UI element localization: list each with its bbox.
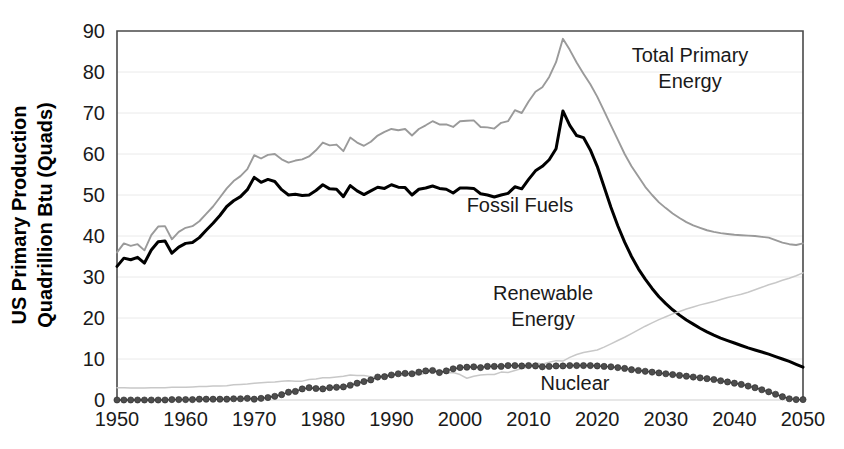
series-marker-nuclear bbox=[148, 397, 154, 403]
series-marker-nuclear bbox=[464, 364, 470, 370]
series-marker-nuclear bbox=[567, 362, 573, 368]
series-marker-nuclear bbox=[676, 372, 682, 378]
series-marker-nuclear bbox=[429, 367, 435, 373]
x-axis-tick-labels: 1950196019701980199020002010202020302040… bbox=[95, 408, 826, 430]
series-marker-nuclear bbox=[670, 371, 676, 377]
series-marker-nuclear bbox=[519, 363, 525, 369]
series-marker-nuclear bbox=[272, 393, 278, 399]
y-axis-title-line1: US Primary Production bbox=[8, 106, 30, 325]
y-axis-title-line2: Quadrillion Btu (Quads) bbox=[34, 102, 56, 328]
series-marker-nuclear bbox=[155, 397, 161, 403]
series-marker-nuclear bbox=[313, 385, 319, 391]
x-tick-label-1990: 1990 bbox=[369, 408, 414, 430]
series-marker-nuclear bbox=[587, 362, 593, 368]
series-marker-nuclear bbox=[189, 396, 195, 402]
x-tick-label-1980: 1980 bbox=[301, 408, 346, 430]
y-tick-label-90: 90 bbox=[83, 20, 105, 42]
series-marker-nuclear bbox=[381, 374, 387, 380]
series-marker-nuclear bbox=[484, 363, 490, 369]
series-marker-nuclear bbox=[738, 381, 744, 387]
series-marker-nuclear bbox=[800, 396, 806, 402]
series-marker-nuclear bbox=[772, 391, 778, 397]
series-marker-nuclear bbox=[779, 394, 785, 400]
series-marker-nuclear bbox=[711, 376, 717, 382]
y-tick-label-50: 50 bbox=[83, 184, 105, 206]
series-marker-nuclear bbox=[724, 379, 730, 385]
series-marker-nuclear bbox=[162, 397, 168, 403]
series-marker-nuclear bbox=[134, 397, 140, 403]
annotation-label-line2-renewable_energy: Energy bbox=[511, 308, 574, 330]
series-marker-nuclear bbox=[505, 362, 511, 368]
series-marker-nuclear bbox=[375, 374, 381, 380]
y-tick-label-60: 60 bbox=[83, 143, 105, 165]
x-tick-label-2000: 2000 bbox=[438, 408, 483, 430]
series-marker-nuclear bbox=[361, 378, 367, 384]
series-marker-nuclear bbox=[608, 364, 614, 370]
series-marker-nuclear bbox=[224, 396, 230, 402]
x-tick-label-1960: 1960 bbox=[163, 408, 208, 430]
series-marker-nuclear bbox=[340, 384, 346, 390]
series-marker-nuclear bbox=[388, 372, 394, 378]
series-marker-nuclear bbox=[416, 369, 422, 375]
x-tick-label-1970: 1970 bbox=[232, 408, 277, 430]
series-marker-nuclear bbox=[306, 385, 312, 391]
y-tick-label-30: 30 bbox=[83, 266, 105, 288]
series-marker-nuclear bbox=[320, 386, 326, 392]
series-marker-nuclear bbox=[196, 396, 202, 402]
series-marker-nuclear bbox=[217, 396, 223, 402]
series-marker-nuclear bbox=[258, 395, 264, 401]
annotation-label-line1-renewable_energy: Renewable bbox=[493, 282, 593, 304]
series-marker-nuclear bbox=[601, 363, 607, 369]
y-tick-label-20: 20 bbox=[83, 307, 105, 329]
x-tick-label-1950: 1950 bbox=[95, 408, 140, 430]
y-tick-label-80: 80 bbox=[83, 61, 105, 83]
y-tick-label-10: 10 bbox=[83, 348, 105, 370]
series-marker-nuclear bbox=[526, 362, 532, 368]
series-marker-nuclear bbox=[745, 383, 751, 389]
series-marker-nuclear bbox=[128, 397, 134, 403]
series-marker-nuclear bbox=[786, 396, 792, 402]
series-marker-nuclear bbox=[628, 367, 634, 373]
series-marker-nuclear bbox=[635, 367, 641, 373]
series-marker-nuclear bbox=[457, 365, 463, 371]
series-marker-nuclear bbox=[231, 396, 237, 402]
series-marker-nuclear bbox=[594, 363, 600, 369]
series-marker-nuclear bbox=[560, 363, 566, 369]
series-marker-nuclear bbox=[423, 368, 429, 374]
series-marker-nuclear bbox=[114, 397, 120, 403]
x-tick-label-2040: 2040 bbox=[712, 408, 757, 430]
series-marker-nuclear bbox=[141, 397, 147, 403]
series-marker-nuclear bbox=[409, 371, 415, 377]
series-marker-nuclear bbox=[731, 380, 737, 386]
annotation-label-line1-total_primary_energy: Total Primary bbox=[632, 44, 749, 66]
series-marker-nuclear bbox=[752, 385, 758, 391]
series-marker-nuclear bbox=[443, 368, 449, 374]
y-tick-label-70: 70 bbox=[83, 102, 105, 124]
series-marker-nuclear bbox=[697, 375, 703, 381]
series-marker-nuclear bbox=[649, 369, 655, 375]
series-marker-nuclear bbox=[766, 389, 772, 395]
series-marker-nuclear bbox=[759, 387, 765, 393]
series-marker-nuclear bbox=[121, 397, 127, 403]
x-tick-label-2050: 2050 bbox=[781, 408, 826, 430]
annotation-fossil_fuels: Fossil Fuels bbox=[467, 194, 574, 216]
series-marker-nuclear bbox=[690, 374, 696, 380]
annotation-label-line2-total_primary_energy: Energy bbox=[658, 70, 721, 92]
series-marker-nuclear bbox=[327, 385, 333, 391]
y-tick-label-40: 40 bbox=[83, 225, 105, 247]
primary-energy-production-chart: 0102030405060708090 19501960197019801990… bbox=[0, 0, 844, 449]
x-tick-label-2030: 2030 bbox=[644, 408, 689, 430]
series-marker-nuclear bbox=[615, 365, 621, 371]
series-marker-nuclear bbox=[580, 362, 586, 368]
series-marker-nuclear bbox=[546, 363, 552, 369]
series-marker-nuclear bbox=[285, 389, 291, 395]
x-tick-label-2010: 2010 bbox=[506, 408, 551, 430]
series-marker-nuclear bbox=[210, 396, 216, 402]
series-marker-nuclear bbox=[237, 396, 243, 402]
series-marker-nuclear bbox=[471, 364, 477, 370]
annotation-nuclear: Nuclear bbox=[541, 372, 610, 394]
series-marker-nuclear bbox=[656, 370, 662, 376]
series-marker-nuclear bbox=[354, 380, 360, 386]
series-marker-nuclear bbox=[251, 396, 257, 402]
series-marker-nuclear bbox=[574, 362, 580, 368]
